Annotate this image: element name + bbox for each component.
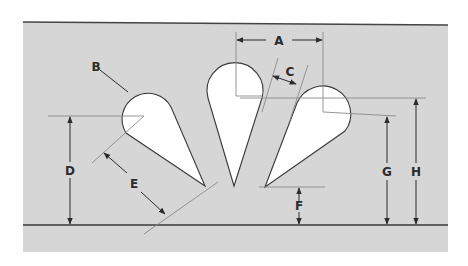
label-d: D (65, 164, 75, 178)
label-c: C (286, 65, 295, 79)
label-a: A (274, 34, 284, 48)
label-f: F (295, 199, 303, 213)
dimension-diagram: A B C D E F G H (0, 0, 468, 266)
label-e: E (130, 177, 138, 191)
label-b: B (91, 60, 100, 74)
label-g: G (382, 165, 392, 179)
label-h: H (411, 165, 421, 179)
